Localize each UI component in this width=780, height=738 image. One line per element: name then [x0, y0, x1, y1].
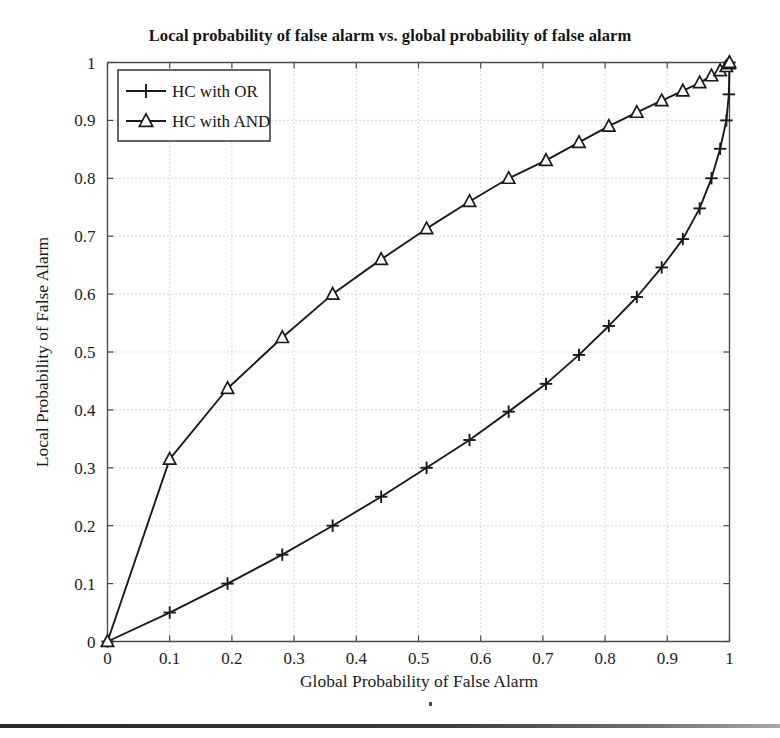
triangle-marker [631, 106, 643, 118]
x-tick-labels: 00.10.20.30.40.50.60.70.80.91 [103, 649, 734, 668]
triangle-marker [463, 195, 475, 207]
triangle-marker [656, 94, 668, 106]
y-tick-label: 0.1 [74, 575, 95, 594]
plus-marker [723, 88, 735, 100]
plus-marker [693, 202, 705, 214]
gridlines [108, 63, 730, 642]
triangle-marker [327, 288, 339, 300]
plus-marker [714, 143, 726, 155]
y-axis-title: Local Probability of False Alarm [32, 236, 52, 467]
y-tick-label: 0.6 [74, 285, 95, 304]
x-tick-label: 0 [103, 649, 112, 668]
triangle-marker [375, 253, 387, 265]
x-axis-title: Global Probability of False Alarm [300, 671, 539, 691]
y-tick-label: 0.4 [74, 401, 96, 420]
x-tick-label: 0.5 [408, 649, 429, 668]
x-tick-label: 0.4 [346, 649, 368, 668]
legend-label: HC with OR [172, 82, 259, 101]
triangle-marker [573, 136, 585, 148]
plot-area: 00.10.20.30.40.50.60.70.80.91 00.10.20.3… [0, 0, 780, 738]
x-tick-label: 0.6 [470, 649, 491, 668]
y-tick-label: 0.5 [74, 343, 95, 362]
legend-label: HC with AND [172, 112, 270, 131]
triangle-marker [694, 76, 706, 88]
plus-marker [420, 462, 432, 474]
y-tick-label: 0.2 [74, 517, 95, 536]
figure-container: Local probability of false alarm vs. glo… [0, 0, 780, 738]
plus-marker [164, 606, 176, 618]
x-tick-label: 0.9 [657, 649, 678, 668]
y-tick-labels: 00.10.20.30.40.50.60.70.80.91 [74, 54, 96, 652]
chart-svg: 00.10.20.30.40.50.60.70.80.91 00.10.20.3… [0, 0, 780, 738]
triangle-marker [420, 222, 432, 234]
triangle-marker [540, 154, 552, 166]
plus-marker [326, 520, 338, 532]
y-tick-label: 0 [87, 633, 96, 652]
plus-marker [276, 548, 288, 560]
x-tick-label: 0.1 [159, 649, 180, 668]
triangle-marker [503, 172, 515, 184]
page-edge-bar [0, 724, 780, 728]
plus-marker [705, 172, 717, 184]
triangle-marker [677, 84, 689, 96]
plus-marker [720, 114, 732, 126]
legend: HC with ORHC with AND [118, 70, 270, 141]
plus-marker [375, 491, 387, 503]
x-tick-label: 0.8 [594, 649, 615, 668]
y-tick-label: 0.8 [74, 169, 95, 188]
x-tick-label: 0.2 [221, 649, 242, 668]
y-tick-label: 0.7 [74, 227, 96, 246]
scan-speck [429, 702, 432, 706]
triangle-marker [603, 120, 615, 132]
x-tick-label: 0.7 [532, 649, 554, 668]
y-tick-label: 0.9 [74, 111, 95, 130]
x-tick-label: 0.3 [283, 649, 304, 668]
plus-marker [463, 434, 475, 446]
y-tick-label: 0.3 [74, 459, 95, 478]
x-tick-label: 1 [725, 649, 734, 668]
y-tick-label: 1 [87, 54, 96, 73]
